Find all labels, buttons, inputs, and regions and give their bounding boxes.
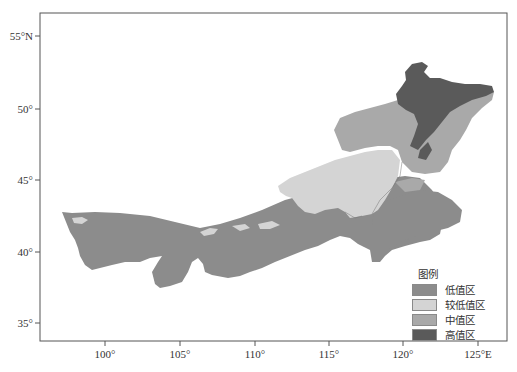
legend-swatch-mid	[412, 314, 437, 326]
legend-label: 较低值区	[445, 297, 485, 312]
x-tick-label: 115°	[319, 348, 340, 360]
legend-item-low: 低值区	[412, 282, 512, 297]
y-tick-label: 35°	[18, 317, 33, 329]
y-tick-label: 55°N	[10, 30, 33, 42]
legend: 图例 低值区 较低值区 中值区 高值区	[412, 266, 512, 342]
legend-item-mid: 中值区	[412, 312, 512, 327]
legend-title: 图例	[418, 266, 512, 282]
x-tick-label: 110°	[245, 348, 266, 360]
y-tick-label: 45°	[18, 174, 33, 186]
region-low-value	[62, 176, 462, 288]
x-tick-label: 125°E	[464, 348, 492, 360]
legend-item-high: 高值区	[412, 327, 512, 342]
y-tick-label: 40°	[18, 246, 33, 258]
legend-swatch-high	[412, 329, 437, 341]
legend-label: 低值区	[445, 282, 475, 297]
y-axis-labels: 55°N 50° 45° 40° 35°	[10, 30, 33, 329]
x-tick-label: 105°	[170, 348, 191, 360]
map-figure: 55°N 50° 45° 40° 35° 100° 105° 110° 115°…	[0, 0, 517, 372]
legend-swatch-lower	[412, 299, 437, 311]
x-tick-label: 120°	[393, 348, 414, 360]
legend-swatch-low	[412, 284, 437, 296]
x-tick-label: 100°	[95, 348, 116, 360]
legend-label: 高值区	[445, 327, 475, 342]
legend-label: 中值区	[445, 312, 475, 327]
y-tick-label: 50°	[18, 103, 33, 115]
y-axis	[35, 36, 40, 323]
x-axis-labels: 100° 105° 110° 115° 120° 125°E	[95, 348, 493, 360]
legend-item-lower: 较低值区	[412, 297, 512, 312]
